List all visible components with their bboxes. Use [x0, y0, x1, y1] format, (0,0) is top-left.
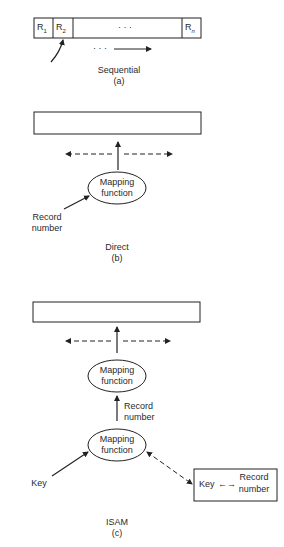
direct-title: Direct: [90, 242, 144, 253]
record-cell-r1: R1: [37, 22, 47, 37]
isam-label: (c): [92, 528, 142, 539]
direct-ellipse-line2: function: [88, 188, 146, 199]
isam-title: ISAM: [92, 517, 142, 528]
table-key-label: Key: [199, 479, 219, 490]
direct-record-label-line1: Record: [24, 212, 70, 223]
isam-lower-ellipse-line1: Mapping: [88, 434, 146, 445]
sequential-label: (a): [90, 76, 148, 87]
direct-file-box: [34, 112, 201, 134]
isam-key-arrow: [52, 452, 88, 476]
record-cell-ellipsis: · · ·: [118, 22, 132, 33]
isam-lookup-table-arrow: [147, 452, 192, 484]
sequential-title: Sequential: [90, 65, 148, 76]
table-record-line1: Record: [234, 472, 274, 483]
isam-record-label-line2: number: [124, 412, 164, 423]
sequential-pointer-arrow: [51, 40, 63, 62]
direct-record-label-line2: number: [24, 223, 70, 234]
table-record-line2: number: [234, 484, 274, 495]
record-cell-r2: R2: [56, 22, 66, 37]
isam-key-label: Key: [24, 478, 54, 489]
direct-record-number-arrow: [64, 196, 89, 209]
table-bidirectional-arrow: ←→: [218, 479, 234, 490]
isam-upper-ellipse-line1: Mapping: [88, 365, 146, 376]
isam-lower-ellipse-line2: function: [88, 445, 146, 456]
isam-record-label-line1: Record: [124, 401, 164, 412]
isam-file-box: [33, 302, 200, 322]
direct-ellipse-line1: Mapping: [88, 177, 146, 188]
record-cell-rn: Rn: [185, 22, 195, 37]
sequential-dots: · · ·: [93, 43, 107, 54]
direct-label: (b): [90, 253, 144, 264]
isam-upper-ellipse-line2: function: [88, 376, 146, 387]
